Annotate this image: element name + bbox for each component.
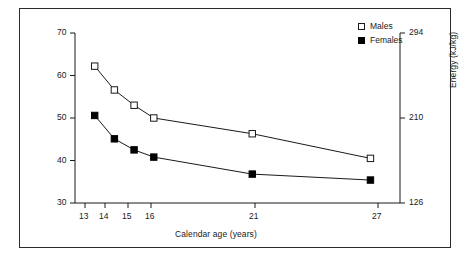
y-tick-label-left-30: 30 [57,197,66,207]
data-point-females-13 [92,112,98,118]
x-tick-label-14: 14 [99,211,108,221]
y-tick-label-left-70: 70 [57,27,66,37]
x-tick-label-15: 15 [122,211,131,221]
data-point-males-16 [151,115,157,121]
y-tick-label-right-126: 126 [409,197,423,207]
legend-label-males: Males [370,21,393,31]
y-tick-label-left-60: 60 [57,70,66,80]
y-tick-label-right-210: 210 [409,112,423,122]
legend-item-males: Males [358,21,393,31]
data-point-males-13 [92,63,98,69]
data-point-females-14 [111,136,117,142]
legend-label-females: Females [370,35,403,45]
y-tick-label-left-40: 40 [57,155,66,165]
y-axis-right-title: Energy (kJ/kg) [448,32,458,88]
x-tick-label-16: 16 [145,211,154,221]
x-tick-label-21: 21 [249,211,258,221]
x-tick-label-13: 13 [79,211,88,221]
data-point-females-21 [249,171,255,177]
data-point-males-21 [249,131,255,137]
open-square-icon [358,23,365,30]
y-tick-label-right-294: 294 [409,27,423,37]
filled-square-icon [358,37,365,44]
y-tick-label-left-50: 50 [57,112,66,122]
series-line-males [95,66,371,158]
x-axis-title: Calendar age (years) [175,229,257,239]
legend-item-females: Females [358,35,403,45]
data-point-males-14 [111,87,117,93]
data-point-females-27 [367,177,373,183]
x-tick-label-27: 27 [372,211,381,221]
data-point-males-27 [367,155,373,161]
data-point-females-15 [131,147,137,153]
data-point-males-15 [131,102,137,108]
data-point-females-16 [151,154,157,160]
chart-figure: 70 60 50 40 30 294 210 126 13 14 15 16 2… [0,0,470,264]
series-markers-females [92,112,374,183]
